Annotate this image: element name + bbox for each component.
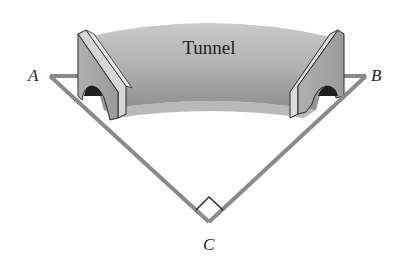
tunnel: Tunnel [78, 23, 344, 120]
right-angle-marker [196, 197, 223, 210]
label-a: A [27, 66, 39, 85]
tunnel-triangle-diagram: Tunnel A B C [0, 0, 399, 260]
label-c: C [203, 235, 215, 254]
tunnel-label: Tunnel [182, 37, 235, 58]
label-b: B [371, 66, 382, 85]
